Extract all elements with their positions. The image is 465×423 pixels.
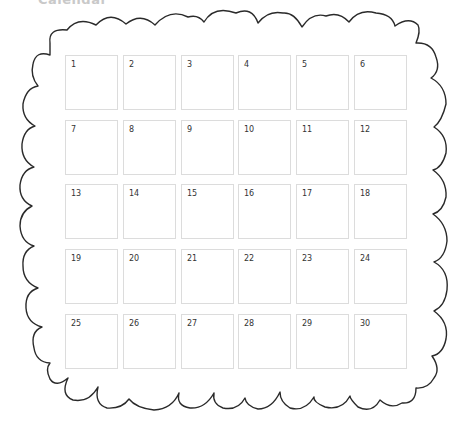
day-cell[interactable]: 16	[238, 184, 291, 239]
day-number: 27	[187, 319, 197, 328]
day-cell[interactable]: 18	[354, 184, 407, 239]
day-number: 16	[244, 189, 254, 198]
day-cell[interactable]: 3	[181, 55, 234, 110]
day-cell[interactable]: 26	[123, 314, 176, 369]
day-number: 2	[129, 60, 134, 69]
day-cell[interactable]: 28	[238, 314, 291, 369]
day-number: 4	[244, 60, 249, 69]
day-number: 14	[129, 189, 139, 198]
day-number: 29	[302, 319, 312, 328]
day-cell[interactable]: 7	[65, 120, 118, 175]
day-number: 22	[244, 254, 254, 263]
day-number: 25	[71, 319, 81, 328]
calendar-grid: 1 2 3 4 5 6 7 8 9 10 11 12 13 14 15 16 1…	[65, 55, 409, 371]
day-cell[interactable]: 6	[354, 55, 407, 110]
day-cell[interactable]: 22	[238, 249, 291, 304]
day-number: 8	[129, 125, 134, 134]
day-number: 18	[360, 189, 370, 198]
day-number: 1	[71, 60, 76, 69]
day-cell[interactable]: 8	[123, 120, 176, 175]
day-number: 12	[360, 125, 370, 134]
day-number: 6	[360, 60, 365, 69]
day-cell[interactable]: 11	[296, 120, 349, 175]
day-number: 21	[187, 254, 197, 263]
day-number: 9	[187, 125, 192, 134]
day-number: 30	[360, 319, 370, 328]
day-cell[interactable]: 17	[296, 184, 349, 239]
day-cell[interactable]: 14	[123, 184, 176, 239]
day-number: 17	[302, 189, 312, 198]
day-cell[interactable]: 15	[181, 184, 234, 239]
day-number: 7	[71, 125, 76, 134]
day-cell[interactable]: 20	[123, 249, 176, 304]
day-number: 5	[302, 60, 307, 69]
day-number: 10	[244, 125, 254, 134]
day-cell[interactable]: 10	[238, 120, 291, 175]
day-cell[interactable]: 21	[181, 249, 234, 304]
day-cell[interactable]: 1	[65, 55, 118, 110]
day-number: 15	[187, 189, 197, 198]
day-cell[interactable]: 23	[296, 249, 349, 304]
day-cell[interactable]: 29	[296, 314, 349, 369]
day-number: 26	[129, 319, 139, 328]
day-cell[interactable]: 9	[181, 120, 234, 175]
day-number: 19	[71, 254, 81, 263]
day-number: 28	[244, 319, 254, 328]
day-cell[interactable]: 25	[65, 314, 118, 369]
day-number: 23	[302, 254, 312, 263]
day-cell[interactable]: 5	[296, 55, 349, 110]
day-number: 13	[71, 189, 81, 198]
day-cell[interactable]: 19	[65, 249, 118, 304]
day-cell[interactable]: 27	[181, 314, 234, 369]
day-cell[interactable]: 24	[354, 249, 407, 304]
day-cell[interactable]: 30	[354, 314, 407, 369]
day-cell[interactable]: 13	[65, 184, 118, 239]
day-cell[interactable]: 4	[238, 55, 291, 110]
day-number: 20	[129, 254, 139, 263]
day-cell[interactable]: 12	[354, 120, 407, 175]
day-cell[interactable]: 2	[123, 55, 176, 110]
day-number: 24	[360, 254, 370, 263]
day-number: 3	[187, 60, 192, 69]
day-number: 11	[302, 125, 312, 134]
